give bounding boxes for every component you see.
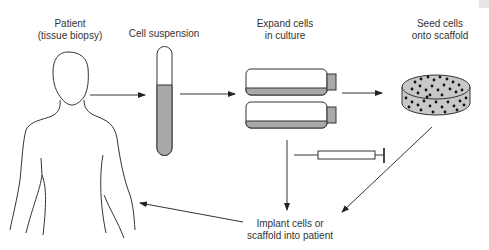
scaffold-icon	[402, 75, 470, 115]
workflow-diagram	[0, 0, 489, 250]
culture-flask-icon	[246, 69, 336, 95]
patient-body-icon	[10, 52, 135, 238]
arrow-scaffold-to-implant	[342, 127, 432, 212]
arrow-implant-to-patient	[140, 203, 243, 222]
culture-flask-icon	[246, 102, 336, 128]
syringe-icon	[294, 148, 384, 163]
test-tube-icon	[157, 47, 172, 156]
